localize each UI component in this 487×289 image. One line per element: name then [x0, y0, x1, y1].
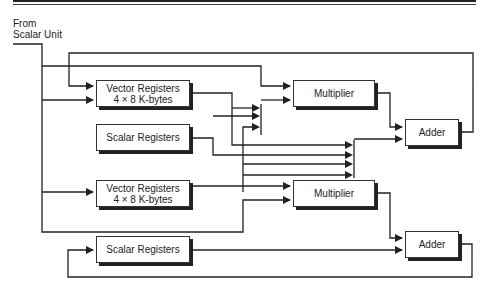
vr2-line-1: Vector Registers — [106, 183, 179, 194]
scalar-registers-1-block: Scalar Registers — [96, 124, 190, 151]
adder-1-block: Adder — [405, 119, 459, 146]
adder-2-block: Adder — [405, 231, 459, 258]
sr1-label: Scalar Registers — [106, 132, 179, 143]
adder1-label: Adder — [419, 127, 446, 138]
adder2-label: Adder — [419, 239, 446, 250]
sr2-label: Scalar Registers — [106, 244, 179, 255]
vr1-line-1: Vector Registers — [106, 83, 179, 94]
mult2-label: Multiplier — [314, 188, 354, 199]
vr2-line-2: 4 × 8 K-bytes — [113, 194, 172, 205]
multiplier-2-block: Multiplier — [293, 180, 375, 207]
scalar-registers-2-block: Scalar Registers — [96, 236, 190, 263]
vector-registers-2-block: Vector Registers 4 × 8 K-bytes — [96, 180, 190, 207]
multiplier-1-block: Multiplier — [293, 80, 375, 107]
mult1-label: Multiplier — [314, 88, 354, 99]
vr1-line-2: 4 × 8 K-bytes — [113, 94, 172, 105]
vector-registers-1-block: Vector Registers 4 × 8 K-bytes — [96, 80, 190, 107]
